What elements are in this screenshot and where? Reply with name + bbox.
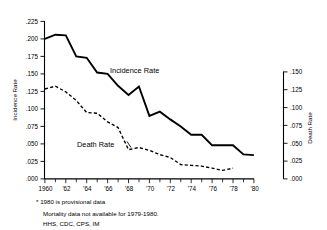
left-tick-label-050: .050 xyxy=(26,140,39,147)
left-axis: .225 .200 .175 .150 .125 .100 .075 .050 … xyxy=(11,18,45,183)
right-tick-label-125: .125 xyxy=(290,86,303,93)
x-tick-label-1978: '78 xyxy=(230,185,239,192)
x-tick-label-1974: '74 xyxy=(188,185,197,192)
incidence-rate-annotation: Incidence Rate xyxy=(110,66,159,75)
death-rate-line xyxy=(45,86,233,170)
right-tick-label-025: .025 xyxy=(290,157,303,164)
right-tick-label-150: .150 xyxy=(290,68,303,75)
footnote-mortality: Mortality data not available for 1979-19… xyxy=(43,210,159,217)
left-tick-label-150: .150 xyxy=(26,70,39,77)
x-tick-label-1972: '72 xyxy=(167,185,176,192)
right-tick-label-075: .075 xyxy=(290,122,303,129)
right-tick-label-000: .000 xyxy=(290,175,303,182)
x-tick-label-1968: '68 xyxy=(125,185,134,192)
left-tick-label-000: .000 xyxy=(26,175,39,182)
death-rate-label: Death Rate xyxy=(77,140,114,149)
left-tick-label-125: .125 xyxy=(26,88,39,95)
incidence-rate-line xyxy=(45,35,254,155)
x-tick-label-1980: '80 xyxy=(250,185,259,192)
footnotes: * 1980 is provisional data Mortality dat… xyxy=(36,198,159,227)
line-chart-svg: .225 .200 .175 .150 .125 .100 .075 .050 … xyxy=(0,0,327,230)
left-tick-label-175: .175 xyxy=(26,53,39,60)
x-tick-label-1964: '64 xyxy=(83,185,92,192)
incidence-rate-label: Incidence Rate xyxy=(110,66,159,75)
x-tick-label-1976: '76 xyxy=(209,185,218,192)
right-tick-label-100: .100 xyxy=(290,104,303,111)
x-tick-label-1970: '70 xyxy=(146,185,155,192)
footnote-provisional: * 1980 is provisional data xyxy=(36,198,106,205)
right-axis: .150 .125 .100 .075 .050 .025 .000 Death… xyxy=(284,68,314,182)
left-tick-label-225: .225 xyxy=(26,18,39,25)
death-rate-annotation: Death Rate xyxy=(77,140,131,149)
x-tick-label-1962: '62 xyxy=(62,185,71,192)
x-tick-label-1966: '66 xyxy=(104,185,113,192)
right-axis-title: Death Rate xyxy=(306,112,313,144)
left-axis-title: Incidence Rate xyxy=(11,79,18,121)
left-tick-label-075: .075 xyxy=(26,123,39,130)
left-tick-label-200: .200 xyxy=(26,35,39,42)
x-tick-label-1960: 1960 xyxy=(38,185,53,192)
chart-figure: .225 .200 .175 .150 .125 .100 .075 .050 … xyxy=(0,0,327,230)
x-axis: 1960 '62 '64 '66 '68 '70 '72 '74 '76 '78… xyxy=(38,179,259,192)
footnote-source: HHS, CDC, CPS, IM xyxy=(43,220,99,227)
right-tick-label-050: .050 xyxy=(290,140,303,147)
left-tick-label-025: .025 xyxy=(26,158,39,165)
left-tick-label-100: .100 xyxy=(26,105,39,112)
